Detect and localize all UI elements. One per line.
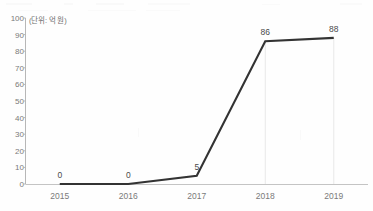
x-axis-tick-label: 2018 [256, 191, 275, 201]
line-chart: (단위: 억 원) 0102030405060708090100 2015201… [0, 0, 373, 211]
x-axis-tick-label: 2015 [50, 191, 69, 201]
axis-lines [26, 18, 369, 185]
data-point-label: 0 [57, 170, 62, 180]
x-axis-tick-label: 2017 [187, 191, 206, 201]
x-axis-tick-label: 2019 [324, 191, 343, 201]
data-point-label: 5 [194, 162, 199, 172]
gridlines [265, 38, 334, 184]
data-point-label: 0 [126, 170, 131, 180]
data-point-label: 88 [329, 24, 338, 34]
data-point-label: 86 [261, 27, 270, 37]
plot-area [0, 0, 373, 211]
x-axis-tick-label: 2016 [119, 191, 138, 201]
